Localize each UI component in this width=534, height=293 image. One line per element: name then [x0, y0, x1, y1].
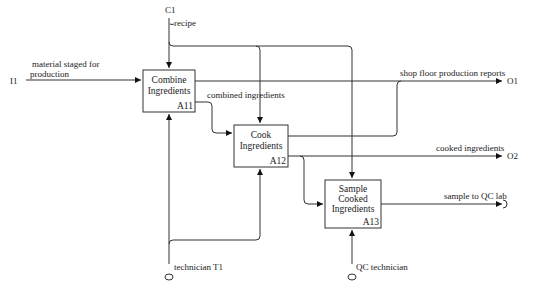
arrow-a11-to-a12 [195, 102, 232, 133]
input-label-line1: material staged for [32, 59, 99, 69]
internal-arrow-label: combined ingredients [207, 90, 285, 100]
mechanism-arrow-to-a12 [169, 169, 260, 244]
activity-a13[interactable]: Sample Cooked Ingredients A13 [325, 180, 381, 228]
mechanism-qc: QC technician [348, 230, 408, 280]
activity-title-line2: Ingredients [240, 141, 283, 151]
tunnel-icon [503, 200, 507, 208]
activity-title-line1: Cook [251, 130, 272, 140]
activity-title-line2: Ingredients [148, 86, 191, 96]
idef0-diagram: C1 recipe I1 material staged for product… [0, 0, 534, 293]
output-code-o1: O1 [507, 76, 518, 86]
control-code-c1: C1 [165, 5, 176, 15]
input-code-i1: I1 [10, 76, 18, 86]
activity-title-line3: Ingredients [332, 204, 375, 214]
control-label-recipe: recipe [174, 18, 196, 28]
input-label-line2: production [30, 69, 69, 79]
tunnel-icon [348, 274, 356, 280]
activity-title-line2: Cooked [338, 194, 368, 204]
mechanism-label-qc: QC technician [356, 262, 408, 272]
output-sample-qc: sample to QC lab [381, 191, 507, 208]
activity-title-line1: Combine [152, 75, 187, 85]
mechanism-label-t1: technician T1 [174, 262, 223, 272]
activity-id: A13 [363, 217, 380, 227]
activity-id: A11 [177, 101, 193, 111]
output-label-sample: sample to QC lab [444, 191, 507, 201]
output-code-o2: O2 [507, 151, 518, 161]
output-label-o2: cooked ingredients [436, 143, 505, 153]
activity-a12[interactable]: Cook Ingredients A12 [234, 125, 288, 167]
tunnel-icon [165, 274, 173, 280]
input-i1: I1 material staged for production [10, 59, 141, 86]
activity-id: A12 [270, 156, 287, 166]
a12-output-join-o1 [288, 81, 401, 136]
activity-a11[interactable]: Combine Ingredients A11 [143, 70, 195, 112]
output-label-o1: shop floor production reports [400, 68, 506, 78]
activity-title-line1: Sample [339, 184, 368, 194]
squiggle-icon [170, 24, 174, 25]
arrow-a12-to-a13 [300, 156, 323, 204]
